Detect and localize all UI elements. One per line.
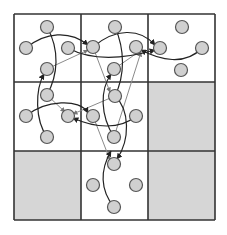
graph-node [108, 63, 121, 76]
graph-node [20, 42, 33, 55]
graph-node [41, 63, 54, 76]
grid-graph-diagram [0, 0, 227, 235]
shaded-cell [148, 82, 215, 151]
graph-node [109, 21, 122, 34]
graph-node [130, 41, 143, 54]
graph-node [130, 110, 143, 123]
graph-node [109, 90, 122, 103]
graph-node [20, 110, 33, 123]
graph-node [175, 64, 188, 77]
graph-node [62, 110, 75, 123]
graph-node [108, 131, 121, 144]
graph-node [108, 201, 121, 214]
graph-node [87, 41, 100, 54]
graph-node [108, 158, 121, 171]
shaded-cell [148, 151, 215, 220]
graph-node [196, 42, 209, 55]
graph-node [62, 42, 75, 55]
grid-cells [14, 14, 215, 220]
graph-node [41, 89, 54, 102]
graph-node [130, 179, 143, 192]
graph-node [154, 42, 167, 55]
graph-node [176, 21, 189, 34]
graph-node [41, 131, 54, 144]
graph-node [87, 179, 100, 192]
graph-node [87, 110, 100, 123]
graph-node [41, 21, 54, 34]
shaded-cell [14, 151, 81, 220]
